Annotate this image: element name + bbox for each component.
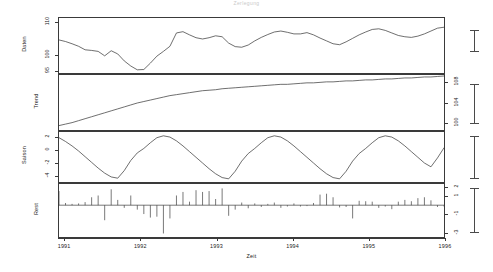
x-tick-label: 1995	[362, 243, 375, 249]
ref-bar-stem	[474, 84, 475, 124]
reference-scale-bar	[470, 136, 479, 179]
y-tick-label: 108	[453, 74, 459, 88]
ref-bar-stem	[474, 136, 475, 179]
x-tick	[445, 238, 446, 241]
y-tick-label: 1	[453, 188, 459, 202]
y-tick-label: -1	[453, 206, 459, 220]
ref-bar-stem	[474, 30, 475, 52]
x-tick-label: 1994	[286, 243, 299, 249]
plot-title: Zerlegung	[0, 0, 493, 6]
ref-bar-cap-bottom	[470, 51, 479, 52]
y-tick-label: 100	[453, 115, 459, 129]
y-tick-label: 0	[44, 142, 50, 156]
reference-scale-bar	[470, 188, 479, 233]
y-tick	[445, 214, 448, 215]
y-tick-label: 2	[44, 129, 50, 143]
y-tick	[445, 103, 448, 104]
ref-bar-stem	[474, 188, 475, 233]
saison-series-area	[58, 132, 445, 182]
daten-series-area	[58, 18, 445, 73]
reference-scale-bar	[470, 84, 479, 124]
daten-panel-axis-title: Daten	[21, 24, 27, 64]
ref-bar-cap-bottom	[470, 232, 479, 233]
trend-series-area	[58, 75, 445, 130]
y-tick	[445, 196, 448, 197]
y-tick	[55, 55, 58, 56]
y-tick	[55, 163, 58, 164]
y-tick	[445, 233, 448, 234]
y-tick-label: -3	[453, 225, 459, 239]
y-tick	[55, 137, 58, 138]
y-tick	[445, 187, 448, 188]
rest-series-area	[58, 184, 445, 237]
y-tick	[55, 22, 58, 23]
x-tick	[369, 238, 370, 241]
x-axis-line	[58, 238, 445, 239]
saison-panel	[58, 131, 445, 183]
y-tick	[445, 82, 448, 83]
y-tick	[55, 150, 58, 151]
decomposition-plot: Zerlegung 199119921993199419951996 Zeit …	[0, 0, 493, 272]
x-tick-label: 1991	[58, 243, 71, 249]
y-tick	[55, 71, 58, 72]
ref-bar-cap-bottom	[470, 178, 479, 179]
saison-panel-axis-title: Saison	[21, 135, 27, 175]
y-tick-label: 110	[44, 14, 50, 28]
y-tick	[445, 123, 448, 124]
rest-panel-axis-title: Rest	[33, 189, 39, 229]
daten-panel	[58, 17, 445, 74]
y-tick-label: 100	[44, 47, 50, 61]
y-tick-label: -4	[44, 168, 50, 182]
x-tick	[217, 238, 218, 241]
ref-bar-cap-bottom	[470, 123, 479, 124]
reference-scale-bar	[470, 30, 479, 52]
y-tick-label: 95	[44, 63, 50, 77]
x-tick	[140, 238, 141, 241]
x-tick-label: 1993	[210, 243, 223, 249]
y-tick	[55, 176, 58, 177]
x-tick-label: 1996	[439, 243, 452, 249]
x-tick-label: 1992	[134, 243, 147, 249]
trend-panel	[58, 74, 445, 131]
y-tick-label: 104	[453, 95, 459, 109]
x-tick	[64, 238, 65, 241]
trend-panel-axis-title: Trend	[33, 81, 39, 121]
x-axis-title: Zeit	[58, 253, 445, 259]
rest-panel	[58, 183, 445, 238]
x-tick	[293, 238, 294, 241]
